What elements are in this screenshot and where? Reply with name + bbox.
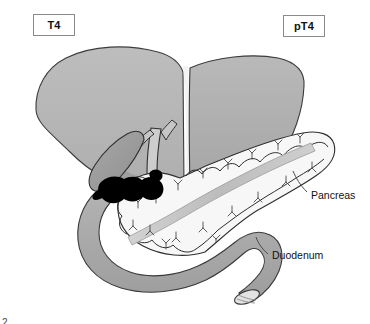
anatomy-illustration [0,0,370,324]
pathologic-stage-label-text: pT4 [294,20,314,32]
anatomy-figure: T4 pT4 Pancreas Duodenum 2 [0,0,370,324]
clinical-stage-label-text: T4 [47,19,60,31]
pancreas-label: Pancreas [311,189,355,201]
duodenum-label: Duodenum [272,249,323,261]
tumor-mass [98,177,163,204]
figure-number-partial: 2 [2,318,8,324]
clinical-stage-label-box: T4 [33,14,75,36]
pathologic-stage-label-box: pT4 [283,15,325,37]
